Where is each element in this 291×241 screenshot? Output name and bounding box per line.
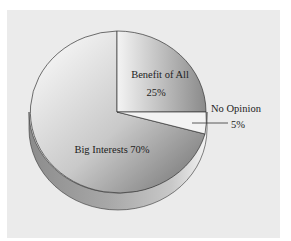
label-benefit-line1: Benefit of All — [131, 69, 189, 80]
label-no-opinion-line1: No Opinion — [211, 103, 262, 114]
label-big-interests: Big Interests 70% — [74, 144, 149, 155]
pie-chart: Benefit of All 25% No Opinion 5% Big Int… — [0, 0, 291, 241]
label-benefit-line2: 25% — [146, 87, 166, 98]
label-no-opinion-line2: 5% — [231, 119, 245, 130]
